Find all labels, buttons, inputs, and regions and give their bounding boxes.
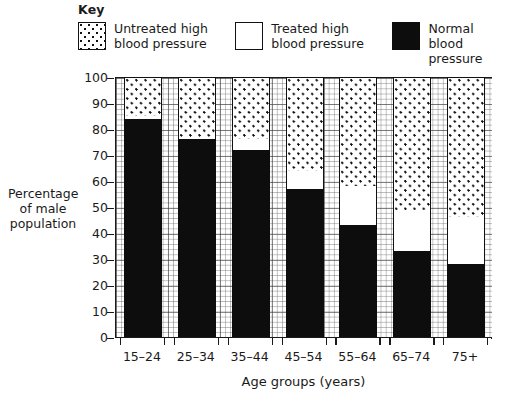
y-tick-label: 100 [74,72,108,84]
bar-segment-untreated [124,77,162,116]
x-tick-mark [326,338,327,345]
x-tick-mark [120,338,121,345]
y-tick-label: 10 [74,306,108,318]
y-tick-mark [107,338,114,339]
bar-segment-normal [339,225,377,337]
y-tick-mark [107,130,114,131]
y-axis-label-line-2: of male [8,201,78,216]
bar-segment-untreated [232,77,270,139]
x-tick-mark [389,338,390,345]
y-tick-mark [107,182,114,183]
y-tick-mark [107,208,114,209]
bar-segment-normal [286,189,324,337]
y-tick-mark [107,260,114,261]
y-tick-label: 60 [74,176,108,188]
y-tick-label: 70 [74,150,108,162]
bar-75+[interactable] [447,77,485,337]
x-axis-label: Age groups (years) [115,374,492,389]
y-tick-label: 50 [74,202,108,214]
y-tick-mark [107,156,114,157]
bar-segment-untreated [393,77,431,210]
bar-segment-treated [232,139,270,149]
bar-segment-normal [447,264,485,337]
y-axis-label-line-3: population [8,216,78,231]
y-tick-mark [107,286,114,287]
y-tick-mark [107,312,114,313]
bar-segment-untreated [286,77,324,171]
bar-segment-normal [178,139,216,337]
x-tick-mark [272,338,273,345]
plot-canvas [115,78,492,338]
y-axis-label: Percentageof malepopulation [8,186,78,231]
y-tick-label: 40 [74,228,108,240]
x-tick-mark [487,338,488,345]
y-tick-mark [107,234,114,235]
bar-segment-treated [393,210,431,252]
x-tick-mark [228,338,229,345]
x-tick-mark [218,338,219,345]
y-axis-label-line-1: Percentage [8,186,78,201]
x-tick-mark [164,338,165,345]
x-tick-mark [379,338,380,345]
x-tick-mark [282,338,283,345]
bar-15-24[interactable] [124,77,162,337]
bar-55-64[interactable] [339,77,377,337]
bar-segment-treated [286,171,324,189]
y-tick-label: 0 [74,332,108,344]
bar-segment-untreated [339,77,377,186]
x-tick-mark [335,338,336,345]
y-tick-mark [107,78,114,79]
bar-segment-normal [232,150,270,337]
bar-segment-normal [124,119,162,337]
bar-45-54[interactable] [286,77,324,337]
y-tick-label: 20 [74,280,108,292]
bar-35-44[interactable] [232,77,270,337]
bar-segment-treated [447,217,485,264]
chart-area: 0102030405060708090100 15–2425–3435–4445… [0,0,514,403]
x-tick-label: 75+ [430,349,500,364]
y-tick-label: 30 [74,254,108,266]
bar-25-34[interactable] [178,77,216,337]
bar-65-74[interactable] [393,77,431,337]
bar-segment-untreated [178,77,216,137]
x-tick-mark [174,338,175,345]
bar-segment-normal [393,251,431,337]
x-tick-mark [433,338,434,345]
x-tick-mark [443,338,444,345]
bar-segment-untreated [447,77,485,217]
y-tick-label: 80 [74,124,108,136]
y-tick-label: 90 [74,98,108,110]
bar-segment-treated [339,186,377,225]
y-tick-mark [107,104,114,105]
